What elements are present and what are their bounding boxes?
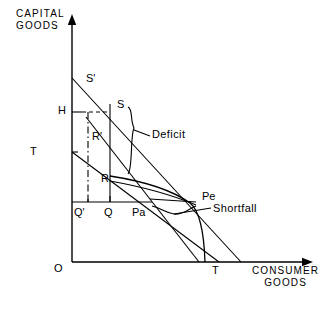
deficit-leader-line — [134, 130, 150, 136]
y-axis-arrow-icon — [68, 14, 76, 25]
label-r: R — [101, 172, 109, 184]
label-s-prime: S' — [86, 72, 95, 84]
upper-price-line — [72, 78, 241, 262]
label-q-prime: Q' — [74, 206, 85, 218]
y-axis — [68, 14, 76, 262]
pe-horizontal-connector — [150, 199, 196, 202]
callout-shortfall: Shortfall — [213, 202, 257, 214]
economics-diagram: CAPITAL GOODS CONSUMER GOODS O S' S H R'… — [0, 0, 326, 310]
callout-deficit: Deficit — [152, 128, 185, 140]
label-pe: Pe — [202, 190, 215, 202]
diagram-canvas — [0, 0, 326, 310]
label-r-prime: R' — [92, 130, 102, 142]
label-t-vertical: T — [30, 145, 37, 157]
y-axis-title: CAPITAL GOODS — [16, 8, 65, 32]
label-pa: Pa — [132, 206, 145, 218]
origin-label: O — [54, 262, 63, 274]
label-t-horizontal: T — [212, 264, 219, 276]
x-axis-title: CONSUMER GOODS — [252, 265, 319, 289]
label-h: H — [58, 104, 66, 116]
lower-price-line — [72, 152, 219, 262]
label-q: Q — [104, 206, 113, 218]
label-s: S — [117, 98, 124, 110]
production-possibility-frontier — [110, 176, 205, 262]
